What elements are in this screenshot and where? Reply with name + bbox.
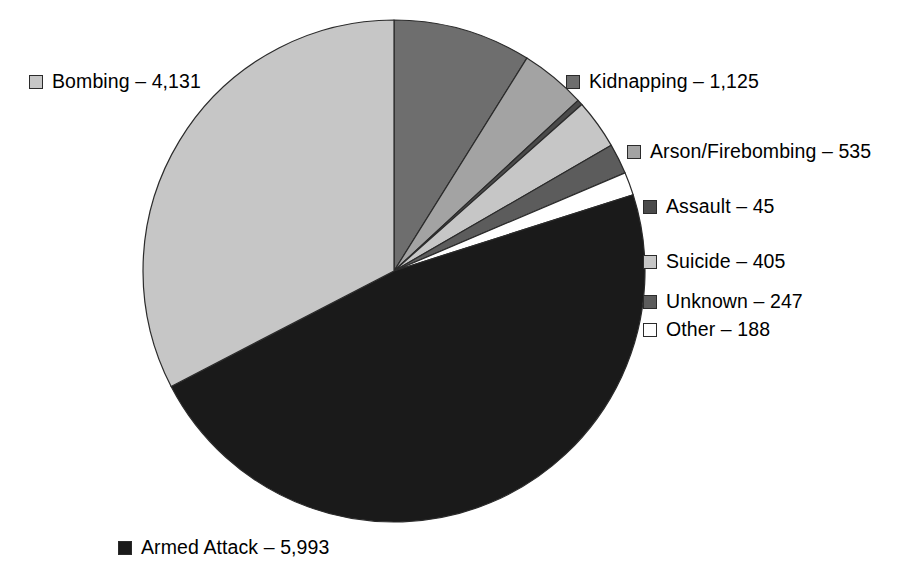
legend-swatch-other: [643, 323, 657, 337]
legend-item-unknown[interactable]: Unknown – 247: [643, 292, 803, 312]
pie-chart-figure: Bombing – 4,131 Kidnapping – 1,125 Arson…: [0, 0, 916, 581]
legend-swatch-armed-attack: [118, 541, 132, 555]
legend-swatch-bombing: [29, 75, 43, 89]
legend-item-other[interactable]: Other – 188: [643, 320, 770, 340]
legend-item-suicide[interactable]: Suicide – 405: [643, 252, 785, 272]
legend-label-suicide: Suicide – 405: [666, 252, 785, 272]
legend-label-bombing: Bombing – 4,131: [52, 72, 201, 92]
legend-label-arson-firebombing: Arson/Firebombing – 535: [650, 142, 871, 162]
legend-label-kidnapping: Kidnapping – 1,125: [589, 72, 759, 92]
legend-item-arson-firebombing[interactable]: Arson/Firebombing – 535: [627, 142, 871, 162]
legend-item-kidnapping[interactable]: Kidnapping – 1,125: [566, 72, 759, 92]
legend-swatch-unknown: [643, 295, 657, 309]
legend-swatch-kidnapping: [566, 75, 580, 89]
legend-item-bombing[interactable]: Bombing – 4,131: [29, 72, 201, 92]
legend-label-assault: Assault – 45: [666, 197, 775, 217]
legend-label-armed-attack: Armed Attack – 5,993: [141, 538, 329, 558]
legend-label-other: Other – 188: [666, 320, 770, 340]
legend-item-assault[interactable]: Assault – 45: [643, 197, 775, 217]
legend-swatch-suicide: [643, 255, 657, 269]
legend-swatch-assault: [643, 200, 657, 214]
legend-item-armed-attack[interactable]: Armed Attack – 5,993: [118, 538, 329, 558]
pie-slices-group: [143, 20, 645, 522]
legend-swatch-arson-firebombing: [627, 145, 641, 159]
legend-label-unknown: Unknown – 247: [666, 292, 803, 312]
